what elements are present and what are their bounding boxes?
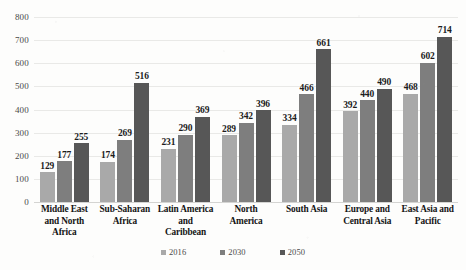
bar-column[interactable]: 490 xyxy=(377,17,392,202)
bar-column[interactable]: 290 xyxy=(178,17,193,202)
bar[interactable] xyxy=(316,49,331,202)
bar-value-label: 440 xyxy=(360,89,374,99)
bar[interactable] xyxy=(437,37,452,202)
x-axis-category-label: Europe andCentral Asia xyxy=(337,204,398,239)
bar-value-label: 661 xyxy=(317,38,331,48)
x-axis-category-line: Latin America xyxy=(156,204,215,216)
x-axis-category-line: Middle East xyxy=(35,204,94,216)
bar[interactable] xyxy=(134,83,149,202)
y-axis-tick-label: 600 xyxy=(15,58,29,68)
bar-group: 392440490 xyxy=(337,17,398,202)
bar[interactable] xyxy=(299,94,314,202)
bar-column[interactable]: 602 xyxy=(420,17,435,202)
bar-column[interactable]: 440 xyxy=(360,17,375,202)
bar-group: 334466661 xyxy=(276,17,337,202)
bar-column[interactable]: 392 xyxy=(343,17,358,202)
bar[interactable] xyxy=(360,100,375,202)
x-axis-category-label: NorthAmerica xyxy=(216,204,277,239)
bar-column[interactable]: 369 xyxy=(195,17,210,202)
bar-column[interactable]: 129 xyxy=(40,17,55,202)
x-axis-category-line: and North xyxy=(35,216,94,228)
bar[interactable] xyxy=(282,125,297,202)
bar-value-label: 369 xyxy=(195,105,209,115)
x-axis-category-line: South Asia xyxy=(277,204,336,216)
x-axis-category-label: South Asia xyxy=(276,204,337,239)
bar[interactable] xyxy=(40,172,55,202)
bar[interactable] xyxy=(420,63,435,202)
legend-label: 2030 xyxy=(228,247,245,257)
x-axis-category-line: and xyxy=(156,216,215,228)
legend-label: 2050 xyxy=(288,247,305,257)
x-axis-category-line: Caribbean xyxy=(156,227,215,239)
bar[interactable] xyxy=(256,110,271,202)
bar[interactable] xyxy=(222,135,237,202)
bar-column[interactable]: 174 xyxy=(100,17,115,202)
plot-area: 8007006005004003002001000 12917725517426… xyxy=(34,17,458,202)
x-axis-category-line: Sub-Saharan xyxy=(96,204,155,216)
bar-value-label: 177 xyxy=(57,150,71,160)
x-axis-category-line: East Asia and xyxy=(398,204,457,216)
bar-groups: 1291772551742695162312903692893423963344… xyxy=(34,17,458,202)
bar-column[interactable]: 466 xyxy=(299,17,314,202)
x-axis-category-line: Africa xyxy=(96,216,155,228)
y-axis-tick-label: 0 xyxy=(24,197,29,207)
legend-swatch-icon xyxy=(161,250,166,255)
bar[interactable] xyxy=(403,94,418,202)
bar-column[interactable]: 714 xyxy=(437,17,452,202)
bar-value-label: 396 xyxy=(256,99,270,109)
bar-value-label: 602 xyxy=(421,51,435,61)
bar[interactable] xyxy=(161,149,176,202)
bar-group: 231290369 xyxy=(155,17,216,202)
x-axis-category-line: North xyxy=(217,204,276,216)
bar-column[interactable]: 255 xyxy=(74,17,89,202)
bar[interactable] xyxy=(377,89,392,202)
y-axis-tick-label: 200 xyxy=(15,151,29,161)
bar[interactable] xyxy=(100,162,115,202)
x-axis-category-label: Middle Eastand NorthAfrica xyxy=(34,204,95,239)
legend-item[interactable]: 2050 xyxy=(280,247,305,257)
y-axis-tick-label: 400 xyxy=(15,105,29,115)
chart-page: 8007006005004003002001000 12917725517426… xyxy=(0,0,466,270)
bar-group: 468602714 xyxy=(397,17,458,202)
bar-column[interactable]: 516 xyxy=(134,17,149,202)
bar[interactable] xyxy=(343,111,358,202)
bar-group: 129177255 xyxy=(34,17,95,202)
bar-column[interactable]: 289 xyxy=(222,17,237,202)
y-axis-tick-label: 100 xyxy=(15,174,29,184)
bar-value-label: 231 xyxy=(161,137,175,147)
legend-item[interactable]: 2030 xyxy=(220,247,245,257)
y-axis-tick-label: 300 xyxy=(15,128,29,138)
x-axis-category-line: Pacific xyxy=(398,216,457,228)
bar[interactable] xyxy=(74,143,89,202)
x-axis-category-label: Sub-SaharanAfrica xyxy=(95,204,156,239)
y-axis-tick-label: 700 xyxy=(15,35,29,45)
bar-column[interactable]: 342 xyxy=(239,17,254,202)
bar-column[interactable]: 661 xyxy=(316,17,331,202)
legend-item[interactable]: 2016 xyxy=(161,247,186,257)
bar[interactable] xyxy=(178,135,193,202)
x-axis-category-line: Africa xyxy=(35,227,94,239)
bar-column[interactable]: 468 xyxy=(403,17,418,202)
bar[interactable] xyxy=(117,140,132,202)
y-axis-tick-label: 800 xyxy=(15,12,29,22)
legend-label: 2016 xyxy=(169,247,186,257)
bar-value-label: 334 xyxy=(283,113,297,123)
bar-value-label: 714 xyxy=(438,25,452,35)
bar[interactable] xyxy=(195,117,210,202)
bar-column[interactable]: 396 xyxy=(256,17,271,202)
x-axis-category-line: Europe and xyxy=(338,204,397,216)
bar-value-label: 290 xyxy=(178,123,192,133)
bar[interactable] xyxy=(239,123,254,202)
x-axis-category-line: Central Asia xyxy=(338,216,397,228)
chart-legend: 201620302050 xyxy=(0,247,466,257)
bar-value-label: 516 xyxy=(135,71,149,81)
x-axis-category-label: East Asia andPacific xyxy=(397,204,458,239)
bar-value-label: 269 xyxy=(118,128,132,138)
bar-value-label: 289 xyxy=(222,124,236,134)
bar[interactable] xyxy=(57,161,72,202)
bar-column[interactable]: 269 xyxy=(117,17,132,202)
bar-column[interactable]: 177 xyxy=(57,17,72,202)
bar-column[interactable]: 231 xyxy=(161,17,176,202)
bar-column[interactable]: 334 xyxy=(282,17,297,202)
x-axis-category-label: Latin AmericaandCaribbean xyxy=(155,204,216,239)
